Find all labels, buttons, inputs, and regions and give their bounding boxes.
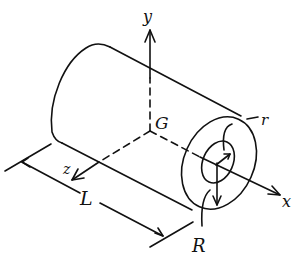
y-axis [145,30,155,131]
inner-circle [195,136,240,188]
z-arrow-icon [72,169,84,180]
z-axis [72,131,150,180]
cylinder-top-edge [110,47,241,116]
outer-radius-label: R [191,235,206,256]
inner-radius-label: r [261,111,269,129]
length-label: L [79,187,93,209]
x-axis [150,131,280,195]
x-axis-label: x [282,192,291,211]
cylinder-diagram: y x z G L r R [0,0,294,259]
z-axis-label: z [62,161,71,177]
outer-radius-indicator [202,163,221,226]
cylinder-body [51,44,241,210]
y-axis-label: y [142,7,153,26]
centroid-label: G [155,113,169,133]
cylinder-left-end [51,44,110,143]
